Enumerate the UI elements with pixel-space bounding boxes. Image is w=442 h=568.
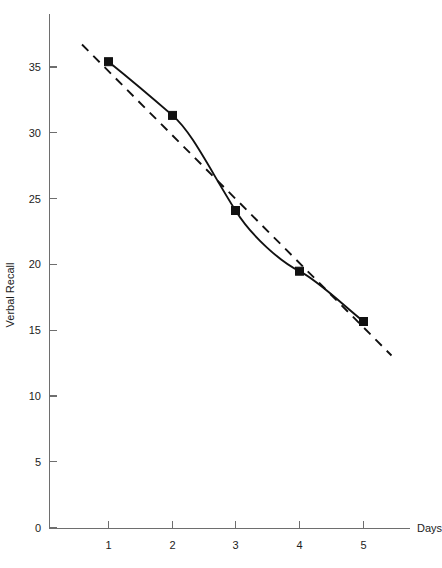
x-tick-label-4: 4 xyxy=(296,539,302,551)
observed-line-solid xyxy=(109,62,364,322)
x-axis-title: Days xyxy=(417,522,442,534)
y-tick-label-30: 30 xyxy=(29,127,41,139)
data-point-day-4 xyxy=(296,267,304,275)
x-tick-label-2: 2 xyxy=(169,539,175,551)
x-axis-ticks xyxy=(109,521,364,529)
data-point-markers xyxy=(105,58,368,326)
y-axis-tick-labels: 35 30 25 20 15 10 5 0 xyxy=(29,61,41,534)
x-tick-label-5: 5 xyxy=(360,539,366,551)
trend-line-dashed xyxy=(82,45,392,356)
y-axis-ticks xyxy=(50,67,58,528)
data-point-day-2 xyxy=(169,111,177,119)
data-point-day-1 xyxy=(105,58,113,66)
x-tick-label-1: 1 xyxy=(105,539,111,551)
y-axis-title: Verbal Recall xyxy=(4,263,16,328)
y-tick-label-10: 10 xyxy=(29,390,41,402)
y-tick-label-0: 0 xyxy=(35,522,41,534)
y-tick-label-5: 5 xyxy=(35,456,41,468)
chart-container: 35 30 25 20 15 10 5 0 1 2 3 4 5 Days Ver… xyxy=(0,0,442,568)
y-tick-label-15: 15 xyxy=(29,324,41,336)
y-tick-label-20: 20 xyxy=(29,258,41,270)
x-axis-tick-labels: 1 2 3 4 5 xyxy=(105,539,366,551)
verbal-recall-line-chart: 35 30 25 20 15 10 5 0 1 2 3 4 5 Days Ver… xyxy=(0,0,442,568)
data-point-day-5 xyxy=(360,318,368,326)
data-point-day-3 xyxy=(232,207,240,215)
y-tick-label-35: 35 xyxy=(29,61,41,73)
x-tick-label-3: 3 xyxy=(232,539,238,551)
y-tick-label-25: 25 xyxy=(29,193,41,205)
